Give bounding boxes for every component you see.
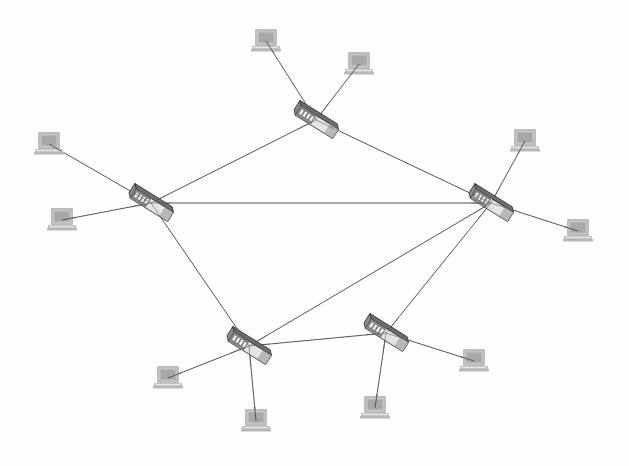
link-s2-s4 bbox=[151, 203, 249, 346]
laptop-icon bbox=[563, 219, 593, 242]
switches-layer bbox=[127, 100, 516, 365]
network-topology-diagram bbox=[0, 0, 629, 466]
network-diagram-canvas bbox=[0, 0, 629, 466]
laptop-icon bbox=[153, 366, 183, 389]
links-layer bbox=[49, 41, 578, 421]
link-s5-s3 bbox=[386, 203, 491, 333]
link-s1-s3 bbox=[316, 120, 491, 203]
laptops-layer bbox=[34, 29, 593, 432]
link-s1-s2 bbox=[151, 120, 316, 203]
laptop-icon bbox=[251, 29, 281, 52]
laptop-icon bbox=[47, 208, 77, 231]
laptop-icon bbox=[34, 132, 64, 155]
laptop-icon bbox=[510, 129, 540, 152]
laptop-icon bbox=[459, 349, 489, 372]
laptop-icon bbox=[344, 52, 374, 75]
link-s4-s5 bbox=[249, 333, 386, 346]
